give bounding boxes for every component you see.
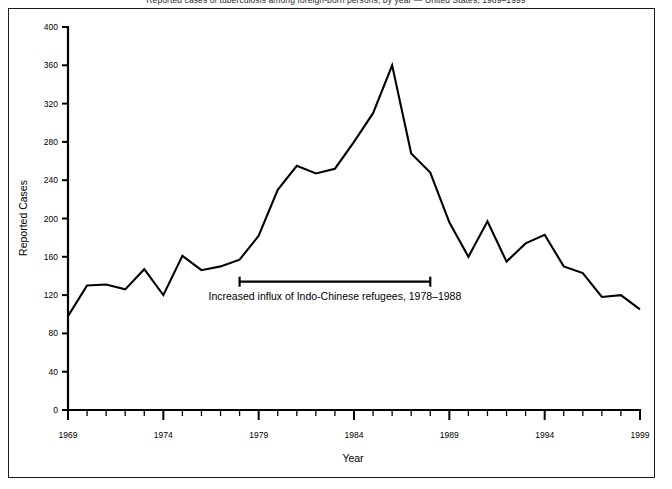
x-axis-tick-label: 1984 xyxy=(345,430,364,440)
y-axis-tick-label: 80 xyxy=(49,328,59,338)
y-axis-tick-label: 240 xyxy=(44,175,58,185)
y-axis-tick-label: 400 xyxy=(44,22,58,32)
x-axis-tick-label: 1974 xyxy=(154,430,173,440)
x-axis-title: Year xyxy=(342,452,364,464)
line-chart-plot: 04080120160200240280320360400 1969197419… xyxy=(0,0,672,489)
x-axis-tick-label: 1989 xyxy=(440,430,459,440)
annotation-range-bar xyxy=(240,277,431,287)
y-axis-title: Reported Cases xyxy=(17,180,29,256)
y-axis-tick-labels: 04080120160200240280320360400 xyxy=(44,22,58,415)
y-axis-tick-label: 320 xyxy=(44,99,58,109)
x-axis-tick-label: 1979 xyxy=(249,430,268,440)
y-axis xyxy=(62,27,68,410)
x-axis-tick-label: 1994 xyxy=(535,430,554,440)
data-series-line xyxy=(68,65,640,316)
y-axis-tick-label: 160 xyxy=(44,252,58,262)
y-axis-tick-label: 200 xyxy=(44,214,58,224)
x-axis xyxy=(68,410,640,420)
y-axis-tick-label: 280 xyxy=(44,137,58,147)
x-axis-tick-label: 1969 xyxy=(59,430,78,440)
y-axis-tick-label: 40 xyxy=(49,367,59,377)
annotation-label: Increased influx of Indo-Chinese refugee… xyxy=(209,290,462,302)
y-axis-tick-label: 360 xyxy=(44,60,58,70)
y-axis-tick-label: 120 xyxy=(44,290,58,300)
x-axis-tick-labels: 1969197419791984198919941999 xyxy=(59,430,650,440)
figure-container: Reported cases of tuberculosis among for… xyxy=(0,0,672,489)
y-axis-tick-label: 0 xyxy=(53,405,58,415)
x-axis-tick-label: 1999 xyxy=(631,430,650,440)
